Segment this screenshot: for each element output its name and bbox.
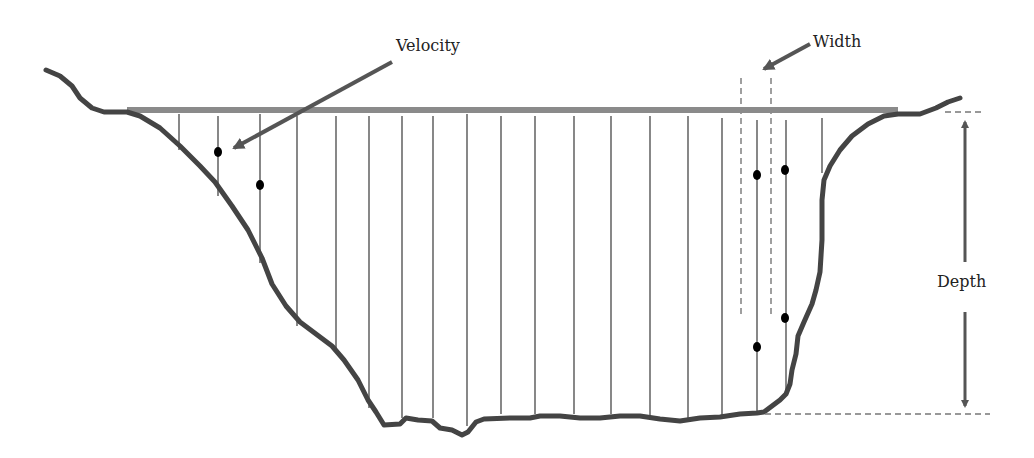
measurement-verticals — [179, 114, 822, 426]
width-guides — [741, 78, 771, 316]
depth-label: Depth — [937, 272, 986, 291]
channel-bed — [46, 70, 960, 435]
depth-dimension — [765, 112, 990, 414]
channel-cross-section-diagram — [0, 0, 1034, 458]
velocity-label: Velocity — [396, 36, 460, 55]
width-arrow-icon — [764, 44, 810, 69]
width-label: Width — [813, 32, 861, 51]
